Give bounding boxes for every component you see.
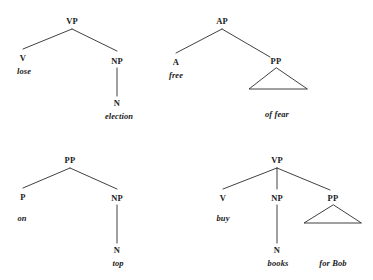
branch-tree2-ap-pp [222, 29, 270, 57]
triangle-tree2-pp [249, 68, 307, 89]
branch-tree1-vp-v [23, 29, 72, 49]
branch-tree3-pp-np [70, 168, 117, 189]
tree4-root-node: VP [271, 156, 283, 165]
branch-tree4-vp-pp [277, 168, 330, 190]
tree4-mid-child-word: books [268, 259, 289, 268]
tree2-left-word: free [169, 71, 183, 80]
tree2-right-word: of fear [265, 110, 289, 119]
branch-tree4-vp-v [223, 168, 277, 189]
tree3-right-child-word: top [112, 259, 123, 268]
tree1-right-node: NP [111, 57, 123, 66]
tree2-root-node: AP [216, 17, 228, 26]
tree3-root-node: PP [65, 156, 76, 165]
tree4-left-node: V [220, 194, 226, 203]
tree-branch-lines [0, 0, 373, 280]
tree3-left-word: on [17, 214, 26, 223]
tree1-right-child-word: election [105, 112, 133, 121]
tree4-right-node: PP [328, 194, 339, 203]
tree4-mid-child-node: N [274, 246, 280, 255]
tree4-right-word: for Bob [319, 259, 346, 268]
tree2-left-node: A [173, 58, 179, 67]
branch-tree1-vp-np [72, 29, 117, 51]
tree4-mid-node: NP [271, 194, 283, 203]
branch-tree3-pp-p [23, 168, 70, 188]
tree4-left-word: buy [216, 214, 229, 223]
syntax-tree-figure: VP V lose NP N election AP A free PP of … [0, 0, 373, 280]
tree2-right-node: PP [271, 57, 282, 66]
tree3-right-node: NP [111, 194, 123, 203]
tree3-left-node: P [20, 193, 25, 202]
tree1-right-child-node: N [114, 99, 120, 108]
tree3-right-child-node: N [114, 246, 120, 255]
tree1-left-node: V [20, 54, 26, 63]
branch-tree2-ap-a [176, 29, 222, 53]
tree1-left-word: lose [17, 67, 31, 76]
tree1-root-node: VP [66, 17, 78, 26]
triangle-tree4-pp [304, 205, 361, 223]
